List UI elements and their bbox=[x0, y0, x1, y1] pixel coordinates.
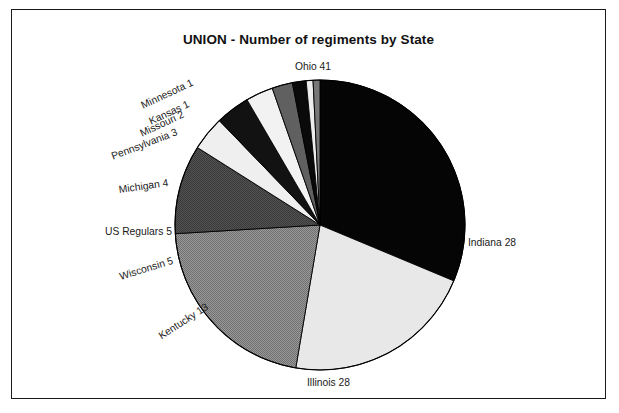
pie-slice-illinois bbox=[175, 225, 320, 368]
pie-slice-group bbox=[175, 80, 465, 370]
slice-label-us-regulars: US Regulars 5 bbox=[105, 227, 172, 238]
slice-label-indiana: Indiana 28 bbox=[468, 238, 516, 249]
slice-label-illinois: Illinois 28 bbox=[307, 378, 350, 389]
slice-label-ohio: Ohio 41 bbox=[295, 62, 331, 73]
